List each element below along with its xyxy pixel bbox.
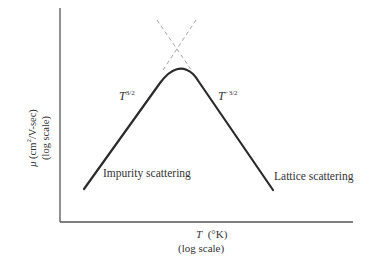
x-axis-label: T (°K) [196, 229, 227, 240]
y-axis-label: μ (cm2/V-sec) (log scale) [23, 109, 52, 167]
left-slope-exp: 3/2 [126, 89, 135, 97]
y-axis-symbol: μ [27, 162, 38, 167]
mobility-plot [0, 0, 374, 258]
right-slope-label: T−3/2 [218, 90, 238, 102]
x-axis-scale: (log scale) [178, 243, 224, 254]
lattice-asymptote [157, 20, 192, 71]
y-axis-scale: (log scale) [39, 109, 52, 167]
y-axis-unit: (cm [27, 143, 38, 159]
right-slope-base: T [218, 89, 225, 103]
x-axis-unit: (°K) [208, 228, 228, 240]
left-slope-base: T [119, 89, 126, 103]
left-slope-label: T3/2 [119, 90, 135, 102]
y-axis-unit-exp: 2 [25, 139, 33, 143]
impurity-asymptote [163, 20, 196, 70]
x-axis-symbol: T [196, 228, 202, 240]
y-axis-unit-rest: /V-sec) [27, 109, 38, 139]
right-slope-exp: −3/2 [225, 89, 238, 97]
lattice-scattering-label: Lattice scattering [274, 171, 354, 183]
impurity-scattering-label: Impurity scattering [103, 168, 191, 180]
